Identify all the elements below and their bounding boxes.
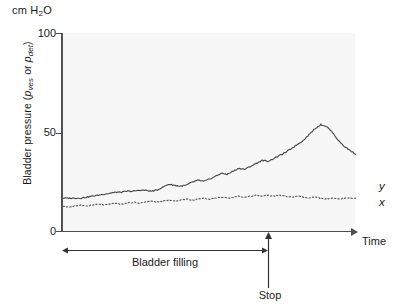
urodynamics-pressure-chart: cm H2O Bladder pressure (pves or pdet) 1… (0, 0, 407, 307)
bladder-filling-label: Bladder filling (62, 256, 268, 268)
x-axis-line (62, 231, 353, 232)
y-tick-label-100: 100 (26, 27, 56, 39)
y-tick-mark-100 (56, 33, 61, 34)
y-tick-mark-0 (56, 231, 61, 232)
series-label-x: x (379, 196, 385, 208)
y-axis-tick-labels: 100 50 0 (26, 0, 56, 240)
series-line-y (63, 124, 356, 199)
bladder-filling-arrow-icon (62, 246, 268, 255)
curves-svg (63, 33, 356, 232)
series-label-y: y (379, 180, 385, 192)
y-axis-title-container: Bladder pressure (pves or pdet) (0, 0, 26, 240)
series-line-x (63, 195, 356, 207)
x-axis-arrowhead-icon (351, 228, 358, 236)
y-tick-label-50: 50 (26, 126, 56, 138)
plot-area (62, 33, 355, 232)
stop-label: Stop (250, 289, 290, 301)
y-tick-mark-50 (56, 133, 61, 134)
stop-arrow-icon (263, 232, 274, 288)
y-tick-label-0: 0 (26, 225, 56, 237)
x-axis-title: Time (362, 235, 386, 247)
